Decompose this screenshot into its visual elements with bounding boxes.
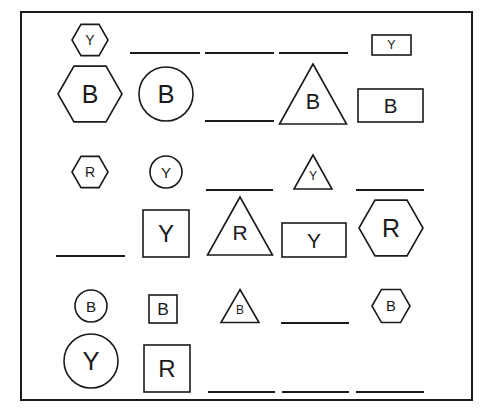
shape-letter: B: [82, 80, 99, 108]
hexagon-shape: R: [359, 200, 423, 256]
rect-shape: Y: [282, 223, 346, 257]
circle-shape: B: [75, 290, 107, 322]
shape-letter: Y: [85, 32, 95, 48]
shape-letter: B: [306, 89, 320, 114]
rect-shape: Y: [372, 35, 411, 55]
rect-shape: B: [358, 89, 423, 122]
rect-shape: Y: [143, 210, 189, 257]
worksheet-frame: [21, 12, 472, 400]
shape-letter: R: [382, 214, 400, 242]
shape-letter: B: [236, 303, 244, 317]
shape-puzzle-worksheet: YYBBBBRYYYRYRBBBBYR: [0, 0, 489, 414]
shape-letter: B: [384, 94, 398, 117]
shape-letter: B: [157, 80, 174, 108]
shape-letter: Y: [161, 164, 171, 181]
shape-letter: B: [86, 298, 96, 315]
triangle-shape: Y: [294, 155, 332, 189]
shape-letter: Y: [82, 347, 99, 375]
shape-letter: Y: [387, 38, 395, 52]
triangle-shape: B: [221, 290, 259, 323]
shape-letter: Y: [307, 229, 321, 252]
rect-shape: B: [149, 295, 177, 323]
shape-grid: YYBBBBRYYYRYRBBBBYR: [56, 24, 424, 392]
hexagon-shape: B: [372, 289, 410, 322]
shape-letter: R: [158, 355, 175, 382]
shape-letter: B: [157, 299, 169, 319]
shape-letter: R: [232, 221, 247, 244]
shape-letter: Y: [158, 220, 174, 247]
shape-letter: Y: [309, 169, 317, 183]
triangle-shape: B: [280, 64, 347, 124]
triangle-shape: R: [208, 197, 273, 255]
hexagon-shape: Y: [72, 24, 108, 55]
shape-letter: B: [386, 298, 396, 314]
circle-shape: Y: [150, 156, 182, 188]
hexagon-shape: B: [58, 66, 122, 122]
circle-shape: B: [139, 67, 193, 121]
circle-shape: Y: [64, 334, 118, 388]
hexagon-shape: R: [72, 156, 108, 187]
shape-letter: R: [85, 164, 95, 180]
rect-shape: R: [144, 345, 190, 392]
